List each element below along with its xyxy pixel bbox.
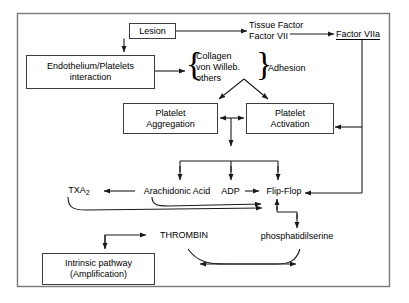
edge-ps-thrombin-curve — [188, 249, 296, 264]
edge-arachidonic-flipflop-curve — [152, 197, 261, 206]
edge-thrombin-elbow — [105, 235, 146, 248]
diagram-connectors — [0, 0, 409, 303]
outer-frame — [18, 14, 390, 287]
edge-txa2-flipflop-curve — [68, 197, 262, 210]
diagram-canvas: Lesion Tissue Factor Factor VII Factor V… — [0, 0, 409, 303]
edge-thrombin-ps-curve — [200, 249, 300, 264]
edge-flipflop-ps-bracket — [277, 206, 297, 219]
edge-adhesion-aggregation — [219, 79, 244, 99]
edge-distribution-bar — [180, 161, 278, 172]
edge-adhesion-activation — [244, 79, 268, 99]
